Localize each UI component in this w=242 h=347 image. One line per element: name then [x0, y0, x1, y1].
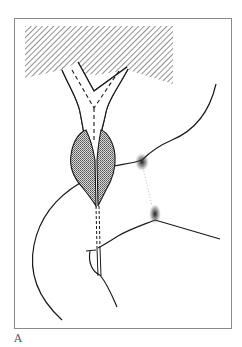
lower-shoulder-curve	[98, 220, 155, 248]
anatomical-diagram	[0, 0, 242, 347]
stipple-point-upper	[135, 153, 149, 171]
paired-glands	[71, 130, 116, 206]
left-gland	[71, 130, 96, 206]
hatched-block	[25, 26, 173, 84]
panel-label: A	[14, 333, 22, 344]
lower-loop	[86, 250, 117, 307]
left-curve	[32, 183, 80, 320]
right-upper-curve	[114, 84, 216, 166]
stipple-connector	[143, 168, 152, 206]
stipple-point-lower	[149, 204, 161, 224]
lower-duct	[96, 206, 101, 276]
right-gland	[97, 130, 115, 206]
right-lower-line	[155, 220, 220, 239]
